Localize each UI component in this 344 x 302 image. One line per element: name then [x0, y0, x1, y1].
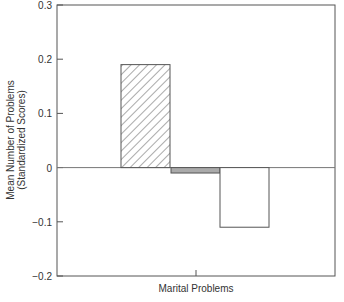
- y-axis-ticks: −0.2−0.100.10.20.3: [32, 0, 63, 282]
- x-axis-label: Marital Problems: [158, 283, 233, 294]
- y-tick-label: 0.2: [38, 54, 52, 65]
- y-tick-label: −0.2: [32, 271, 52, 282]
- bar-1: [121, 65, 170, 168]
- y-tick-label: 0: [46, 163, 52, 174]
- y-tick-label: 0.3: [38, 0, 52, 11]
- bars: [121, 65, 269, 228]
- y-tick-label: 0.1: [38, 108, 52, 119]
- plot-frame: [57, 5, 335, 276]
- bar-3: [220, 168, 269, 228]
- bar-chart: −0.2−0.100.10.20.3 Marital Problems Mean…: [0, 0, 344, 302]
- y-axis-label: Mean Number of Problems: [5, 80, 16, 200]
- bar-2: [171, 168, 220, 173]
- y-tick-label: −0.1: [32, 217, 52, 228]
- y-axis-label-line2: (Standardized Scores): [16, 90, 27, 190]
